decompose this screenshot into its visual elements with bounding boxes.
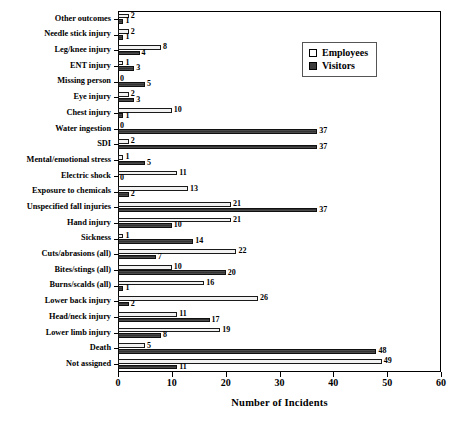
value-label-visitors: 48	[378, 347, 386, 355]
value-label-employees: 8	[163, 43, 167, 51]
bar-employees	[118, 186, 188, 191]
value-label-employees: 16	[206, 279, 214, 287]
x-axis-ticks: 0102030405060	[118, 372, 441, 382]
value-label-visitors: 1	[125, 284, 129, 292]
incidents-bar-chart: Other outcomesNeedle stick injuryLeg/kne…	[0, 0, 470, 427]
bar-employees	[118, 359, 382, 364]
value-label-employees: 49	[384, 357, 392, 365]
x-axis-tick-label: 50	[382, 378, 392, 388]
category-label: Exposure to chemicals	[32, 187, 111, 195]
bar-employees	[118, 234, 123, 239]
value-label-visitors: 5	[147, 159, 151, 167]
value-label-employees: 21	[233, 216, 241, 224]
value-label-visitors: 17	[212, 316, 220, 324]
value-label-visitors: 3	[136, 64, 140, 72]
bar-employees	[118, 343, 145, 348]
bar-employees	[118, 281, 204, 286]
bar-visitors	[118, 145, 317, 150]
chart-legend: Employees Visitors	[302, 42, 377, 77]
bar-visitors	[118, 113, 123, 118]
bar-visitors	[118, 302, 129, 307]
bar-visitors	[118, 66, 134, 71]
legend-item-visitors: Visitors	[309, 60, 368, 73]
filled-square-icon	[309, 62, 317, 70]
value-label-visitors: 20	[228, 269, 236, 277]
category-label: Lower back injury	[45, 297, 111, 305]
category-label: Lower limb injury	[46, 329, 111, 337]
value-label-employees: 22	[238, 247, 246, 255]
value-label-visitors: 3	[136, 96, 140, 104]
bar-visitors	[118, 270, 226, 275]
category-label: Electric shock	[61, 172, 111, 180]
bar-visitors	[118, 208, 317, 213]
bar-visitors	[118, 365, 177, 370]
category-label: Not assigned	[66, 360, 111, 368]
category-label: Hand injury	[67, 219, 111, 227]
value-label-employees: 26	[260, 294, 268, 302]
x-axis-tick-label: 20	[221, 378, 231, 388]
value-label-visitors: 1	[125, 112, 129, 120]
bar-visitors	[118, 161, 145, 166]
category-label: Cuts/abrasions (all)	[42, 250, 111, 258]
category-label: Bites/stings (all)	[55, 266, 111, 274]
x-axis-tick-label: 0	[116, 378, 121, 388]
value-label-visitors: 8	[163, 331, 167, 339]
bar-visitors	[118, 223, 172, 228]
category-label: ENT injury	[70, 62, 111, 70]
bar-employees	[118, 139, 129, 144]
value-label-visitors: 0	[120, 174, 124, 182]
category-label: Eye injury	[73, 93, 111, 101]
category-label: SDI	[97, 140, 111, 148]
bar-visitors	[118, 286, 123, 291]
value-label-visitors: 11	[179, 363, 187, 371]
y-axis-tick	[114, 176, 118, 177]
value-label-employees: 11	[179, 169, 187, 177]
bar-employees	[118, 92, 129, 97]
x-axis-tick-label: 30	[275, 378, 285, 388]
bar-employees	[118, 45, 161, 50]
value-label-visitors: 10	[174, 221, 182, 229]
value-label-visitors: 1	[125, 17, 129, 25]
x-axis-title: Number of Incidents	[118, 397, 441, 408]
bar-employees	[118, 249, 236, 254]
category-label: Death	[90, 344, 111, 352]
bar-visitors	[118, 192, 129, 197]
category-label: Mental/emotional stress	[27, 156, 111, 164]
category-label: Needle stick injury	[44, 30, 111, 38]
bar-visitors	[118, 349, 376, 354]
x-axis-tick-label: 40	[328, 378, 338, 388]
category-axis-labels: Other outcomesNeedle stick injuryLeg/kne…	[0, 11, 115, 372]
value-label-visitors: 4	[142, 49, 146, 57]
x-axis-tick-label: 60	[436, 378, 446, 388]
category-label: Missing person	[57, 77, 111, 85]
bar-visitors	[118, 51, 140, 56]
value-label-employees: 2	[131, 28, 135, 36]
bar-visitors	[118, 255, 156, 260]
value-label-employees: 13	[190, 185, 198, 193]
category-label: Sickness	[81, 234, 111, 242]
value-label-visitors: 7	[158, 253, 162, 261]
category-label: Head/neck injury	[49, 313, 111, 321]
bar-visitors	[118, 98, 134, 103]
bar-employees	[118, 312, 177, 317]
value-label-employees: 10	[174, 106, 182, 114]
bar-employees	[118, 328, 220, 333]
value-label-visitors: 37	[319, 206, 327, 214]
bar-employees	[118, 265, 172, 270]
bar-visitors	[118, 333, 161, 338]
value-label-visitors: 14	[195, 237, 203, 245]
bar-employees	[118, 61, 123, 66]
value-label-visitors: 37	[319, 143, 327, 151]
legend-label-employees: Employees	[322, 47, 368, 60]
category-label: Water ingestion	[55, 125, 111, 133]
category-label: Leg/knee injury	[55, 46, 111, 54]
x-axis-tick-label: 10	[167, 378, 177, 388]
value-label-employees: 19	[222, 326, 230, 334]
category-label: Burns/scalds (all)	[49, 281, 111, 289]
bar-visitors	[118, 82, 145, 87]
bar-visitors	[118, 318, 210, 323]
category-label: Chest injury	[67, 109, 111, 117]
bar-employees	[118, 155, 123, 160]
bar-employees	[118, 296, 258, 301]
value-label-employees: 2	[131, 12, 135, 20]
